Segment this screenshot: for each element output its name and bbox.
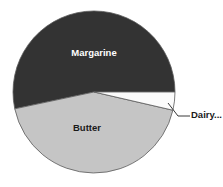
pie-chart-canvas: Margarine Butter Dairy...	[0, 0, 223, 187]
pie-label-margarine: Margarine	[71, 47, 116, 58]
pie-label-butter: Butter	[73, 122, 101, 133]
pie-chart-figure: Margarine Butter Dairy...	[0, 0, 223, 187]
pie-label-dairy: Dairy...	[191, 109, 222, 120]
